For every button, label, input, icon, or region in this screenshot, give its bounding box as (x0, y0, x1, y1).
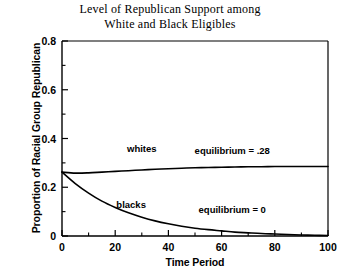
x-tick-label: 80 (269, 241, 281, 253)
x-tick-label: 100 (319, 241, 337, 253)
y-tick-label: 0.8 (41, 35, 56, 47)
y-axis-tick-labels: 00.20.40.60.8 (41, 35, 56, 242)
y-tick-label: 0 (50, 230, 56, 242)
series-inline-labels: whitesblacks (116, 143, 156, 210)
y-tick-label: 0.2 (41, 181, 56, 193)
x-axis-tick-labels: 020406080100 (59, 241, 337, 253)
x-tick-label: 40 (163, 241, 175, 253)
series-label-blacks: blacks (116, 199, 146, 210)
series-line-whites (62, 167, 328, 174)
y-tick-label: 0.6 (41, 84, 56, 96)
chart-annotations: equilibrium = .28equilibrium = 0 (195, 145, 270, 215)
y-axis-ticks (62, 41, 68, 236)
series-line-blacks (62, 172, 328, 235)
plot-area: 020406080100 00.20.40.60.8 whitesblacks … (0, 0, 340, 274)
equilibrium-blacks: equilibrium = 0 (199, 204, 266, 215)
x-tick-label: 60 (216, 241, 228, 253)
chart-figure: Level of Republican Support among White … (0, 0, 340, 274)
y-tick-label: 0.4 (41, 133, 56, 145)
x-tick-label: 0 (59, 241, 65, 253)
axes-frame (62, 41, 328, 236)
series-lines (62, 167, 328, 236)
equilibrium-whites: equilibrium = .28 (195, 145, 270, 156)
x-tick-label: 20 (109, 241, 121, 253)
series-label-whites: whites (126, 143, 157, 154)
